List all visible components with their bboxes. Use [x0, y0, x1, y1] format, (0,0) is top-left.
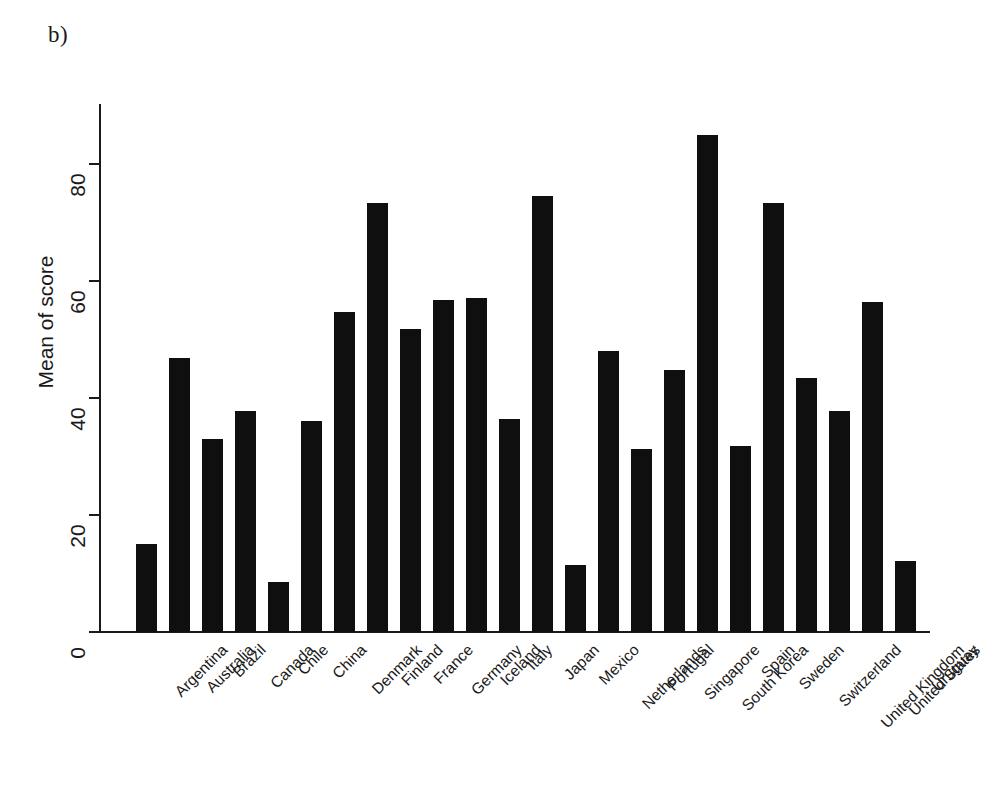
bar	[334, 312, 354, 632]
bars	[0, 0, 993, 632]
bar	[796, 378, 816, 632]
bar	[433, 300, 453, 632]
y-tick-label: 0	[66, 631, 90, 675]
bar	[268, 582, 288, 632]
bar	[136, 544, 156, 632]
bar	[730, 446, 750, 632]
bar	[202, 439, 222, 632]
bar	[532, 196, 552, 632]
bar-chart-plot: Mean of score 020406080 ArgentinaAustral…	[0, 0, 993, 787]
bar	[598, 351, 618, 632]
bar	[565, 565, 585, 632]
bar	[862, 302, 882, 632]
x-tick-label: China	[328, 641, 369, 682]
bar	[400, 329, 420, 632]
bar	[301, 421, 321, 632]
bar	[235, 411, 255, 632]
bar	[895, 561, 915, 632]
x-tick-label: Mexico	[595, 641, 642, 688]
bar	[763, 203, 783, 632]
bar	[169, 358, 189, 632]
bar	[697, 135, 717, 632]
figure-panel-b: b) Mean of score 020406080 ArgentinaAust…	[0, 0, 993, 787]
bar	[631, 449, 651, 632]
bar	[664, 370, 684, 632]
bar	[466, 298, 486, 632]
bar	[829, 411, 849, 632]
bar	[367, 203, 387, 632]
bar	[499, 419, 519, 632]
